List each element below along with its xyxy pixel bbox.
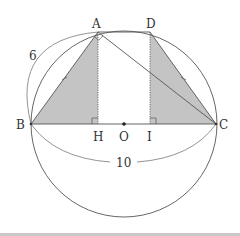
- label-B: B: [16, 118, 25, 132]
- label-C: C: [219, 118, 228, 132]
- label-I: I: [147, 130, 152, 144]
- point-C-dot: [215, 123, 218, 126]
- dimension-label-10: 10: [116, 156, 131, 170]
- label-D: D: [146, 17, 156, 31]
- label-A: A: [91, 17, 101, 31]
- bottom-divider: [0, 233, 240, 236]
- geometry-diagram: A D B C H O I 6 10: [0, 0, 240, 236]
- label-O: O: [119, 130, 129, 144]
- label-H: H: [93, 130, 103, 144]
- dimension-label-6: 6: [29, 49, 37, 63]
- point-B-dot: [30, 123, 33, 126]
- point-O-dot: [122, 122, 126, 126]
